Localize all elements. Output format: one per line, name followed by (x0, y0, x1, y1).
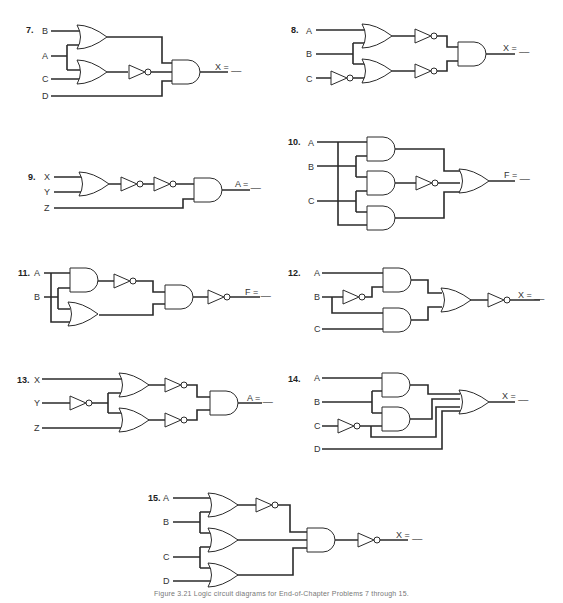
or-gate (459, 169, 489, 193)
output-label: X = __ (518, 290, 545, 300)
input-label: C (314, 421, 321, 431)
circuit-15: 15. A B C D X = __ (148, 493, 423, 587)
or-gate (459, 390, 489, 414)
input-label: B (163, 517, 169, 527)
and-gate (210, 391, 238, 415)
input-label: A (42, 51, 48, 61)
and-gate (172, 60, 200, 84)
or-gate (208, 563, 238, 587)
output-label: F = __ (245, 287, 272, 297)
not-gate (129, 65, 151, 79)
and-gate (382, 373, 410, 397)
not-gate (343, 290, 365, 304)
input-label: A (163, 493, 169, 503)
input-label: B (42, 26, 48, 36)
not-gate (154, 177, 176, 191)
or-gate (119, 373, 149, 397)
problem-number: 7. (26, 25, 34, 35)
not-gate (165, 378, 187, 392)
or-gate (208, 528, 238, 552)
output-label: X = __ (503, 43, 530, 53)
input-label: C (42, 74, 49, 84)
circuit-10: 10. A B C F = __ (288, 137, 531, 230)
output-label: A = __ (235, 179, 262, 189)
and-gate (367, 171, 395, 195)
and-gate (367, 206, 395, 230)
and-gate (70, 268, 98, 292)
problem-number: 8. (291, 25, 299, 35)
or-gate (68, 302, 98, 326)
circuit-12: 12. A B C X = __ (288, 268, 545, 334)
input-label: A (308, 138, 314, 148)
input-label: A (314, 373, 320, 383)
not-gate (358, 533, 380, 547)
and-gate (383, 308, 411, 332)
and-gate (367, 137, 395, 161)
not-gate (415, 64, 437, 78)
circuit-9: 9. X Y Z A = __ (28, 172, 262, 213)
not-gate (256, 498, 278, 512)
or-gate (441, 288, 471, 312)
or-gate (208, 493, 238, 517)
not-gate (338, 419, 360, 433)
circuit-14: 14. A B C D X = __ (288, 373, 529, 454)
input-label: D (42, 91, 49, 101)
output-label: A = __ (247, 393, 274, 403)
input-label: C (163, 552, 170, 562)
problem-number: 9. (28, 172, 36, 182)
or-gate (119, 408, 149, 432)
and-gate (382, 407, 410, 431)
input-label: B (306, 49, 312, 59)
input-label: C (308, 196, 315, 206)
input-label: A (306, 26, 312, 36)
problem-number: 13. (17, 375, 30, 385)
input-label: Y (34, 398, 40, 408)
input-label: B (34, 292, 40, 302)
and-gate (458, 42, 486, 66)
not-gate (114, 274, 136, 288)
input-label: Y (44, 187, 50, 197)
input-label: A (34, 268, 40, 278)
not-gate (70, 396, 92, 410)
input-label: B (314, 397, 320, 407)
problem-number: 14. (288, 374, 301, 384)
not-gate (208, 290, 230, 304)
or-gate (79, 172, 109, 196)
figure-caption: Figure 3.21 Logic circuit diagrams for E… (0, 590, 563, 597)
circuit-11: 11. A B F = __ (18, 268, 272, 326)
output-label: X = __ (396, 530, 423, 540)
not-gate (415, 29, 437, 43)
input-label: X (44, 172, 50, 182)
problem-number: 15. (148, 493, 161, 503)
or-gate (77, 25, 107, 49)
problem-number: 10. (288, 137, 301, 147)
input-label: Z (34, 423, 40, 433)
and-gate (194, 178, 222, 202)
input-label: B (308, 162, 314, 172)
or-gate (362, 24, 392, 48)
output-label: F = __ (504, 170, 531, 180)
input-label: X (34, 375, 40, 385)
not-gate (488, 293, 510, 307)
or-gate (77, 60, 107, 84)
circuit-7: 7. B A C D X = __ (26, 25, 242, 101)
and-gate (383, 268, 411, 292)
input-label: C (314, 324, 321, 334)
input-label: D (163, 576, 170, 586)
input-label: Z (44, 203, 50, 213)
input-label: A (314, 268, 320, 278)
circuit-8: 8. A B C X = __ (291, 24, 530, 85)
input-label: B (314, 292, 320, 302)
input-label: C (306, 74, 313, 84)
problem-number: 11. (18, 268, 30, 278)
not-gate (165, 413, 187, 427)
or-gate (362, 59, 392, 83)
not-gate (121, 177, 143, 191)
not-gate (416, 176, 438, 190)
circuit-13: 13. X Y Z A = __ (17, 373, 274, 433)
and-gate (307, 528, 335, 552)
not-gate (331, 71, 353, 85)
problem-number: 12. (288, 268, 301, 278)
output-label: X = __ (502, 391, 529, 401)
output-label: X = __ (215, 62, 242, 72)
